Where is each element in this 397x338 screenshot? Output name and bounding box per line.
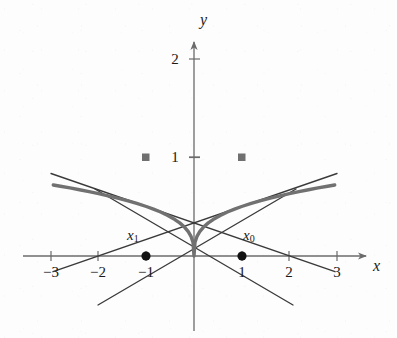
- root-x0-marker: [237, 251, 246, 260]
- annotation-x0-base: x: [243, 227, 250, 243]
- x-tick-label-1: 1: [235, 265, 249, 280]
- y-tick-label-2: 2: [168, 52, 182, 67]
- annotation-x0-subscript: 0: [250, 233, 255, 244]
- annotation-x1-base: x: [127, 227, 134, 243]
- annotation-x1: x1: [127, 228, 139, 244]
- newton-step-line-ascending: [98, 189, 296, 305]
- x-tick-label--3: −3: [41, 265, 61, 280]
- annotation-x1-subscript: 1: [134, 233, 139, 244]
- y-tick-label-1: 1: [168, 150, 182, 165]
- x-tick-label-3: 3: [330, 265, 344, 280]
- plot-canvas: [0, 0, 397, 338]
- y-axis-label: y: [200, 12, 207, 28]
- curve-point-right-marker: [238, 154, 246, 162]
- curve-point-left-marker: [142, 154, 150, 162]
- x-tick-label--2: −2: [88, 265, 108, 280]
- x-axis-label: x: [373, 258, 380, 274]
- x-tick-label-2: 2: [282, 265, 296, 280]
- root-x1-marker: [141, 251, 150, 260]
- x-tick-label--1: −1: [136, 265, 156, 280]
- newton-method-figure: y x −3 −2 −1 1 2 3 1 2 x1 x0: [0, 0, 397, 338]
- axes-group: [23, 42, 366, 331]
- annotation-x0: x0: [243, 228, 255, 244]
